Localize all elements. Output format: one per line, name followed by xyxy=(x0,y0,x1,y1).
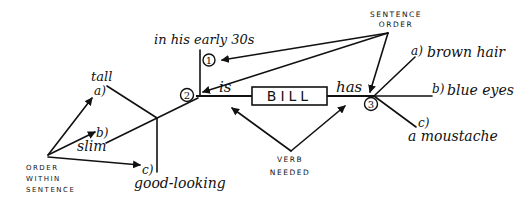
order-within-label-3: SENTENCE xyxy=(26,186,75,194)
has-item-a-text: brown hair xyxy=(427,44,506,60)
is-item-a-text: tall xyxy=(91,69,112,84)
verb-needed-label-2: NEEDED xyxy=(270,168,310,177)
verb-needed-label-1: VERB xyxy=(277,155,303,164)
has-item-b-letter: b) xyxy=(432,82,445,96)
node-1-label: 1 xyxy=(206,55,212,66)
has-item-c-text: a moustache xyxy=(408,128,498,144)
node-1: 1 xyxy=(203,54,215,66)
node-3-label: 3 xyxy=(368,99,374,110)
has-item-a-letter: a) xyxy=(411,44,423,58)
sentence-order-label-1: SENTENCE xyxy=(370,10,422,19)
subject-label: BILL xyxy=(267,88,312,104)
sentence-order-label-2: ORDER xyxy=(379,20,413,29)
order-within-label-1: ORDER xyxy=(26,164,59,172)
time-phrase: in his early 30s xyxy=(154,32,255,47)
order-within-label-2: WITHIN xyxy=(26,175,61,183)
main-spine xyxy=(106,50,374,172)
node-2-label: 2 xyxy=(184,90,190,101)
is-item-a-letter: a) xyxy=(94,84,106,98)
verb-has: has xyxy=(336,78,363,96)
verb-is: is xyxy=(219,78,232,96)
is-item-c-text: good-looking xyxy=(134,175,226,191)
order-within-arrows xyxy=(48,98,140,165)
node-3: 3 xyxy=(365,98,378,111)
subject-box: BILL xyxy=(252,87,327,105)
has-item-b-text: blue eyes xyxy=(447,82,514,98)
is-item-b-text: slim xyxy=(77,138,106,154)
sentence-structure-diagram: BILL 1 2 3 is has in his early 30s tall … xyxy=(0,0,521,203)
node-2: 2 xyxy=(181,89,194,102)
verb-needed-arrows xyxy=(232,106,345,151)
